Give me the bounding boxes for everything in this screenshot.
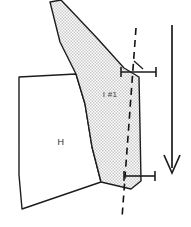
region-h-label: H — [58, 137, 65, 147]
technical-diagram: H I #1 — [0, 0, 191, 227]
diagram-canvas: H I #1 — [0, 0, 191, 227]
downward-direction-arrow — [164, 25, 180, 173]
dimension-leader-upper — [134, 61, 143, 69]
region-i1-label: I #1 — [103, 90, 118, 99]
